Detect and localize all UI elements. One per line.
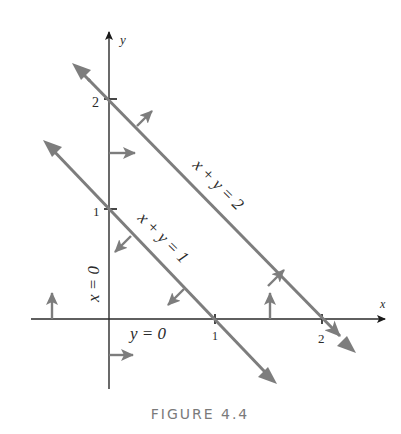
normal-arrow-line1-b <box>168 289 184 305</box>
linear-constraints-diagram: x y 1 2 1 2 x + y = 2 x + y = 1 x = 0 y … <box>0 0 401 434</box>
label-x-eq-0: x = 0 <box>84 265 103 303</box>
figure-caption: FIGURE 4.4 <box>151 406 250 422</box>
x-tick-label-2: 2 <box>318 331 325 346</box>
label-y-eq-0: y = 0 <box>128 324 167 343</box>
normal-arrow-line1-a <box>115 236 131 252</box>
y-tick-label-2: 2 <box>92 95 99 110</box>
line-x-plus-y-eq-2 <box>88 79 340 336</box>
normal-arrow-line2-a <box>137 111 152 126</box>
y-axis-label: y <box>118 32 126 47</box>
label-x-plus-y-eq-1: x + y = 1 <box>133 208 192 267</box>
y-tick-label-1: 1 <box>93 204 100 219</box>
x-axis-label: x <box>379 297 386 311</box>
line-2-lower-arrowhead-icon <box>337 336 356 353</box>
label-x-plus-y-eq-2: x + y = 2 <box>188 155 247 214</box>
x-tick-label-1: 1 <box>212 329 218 343</box>
